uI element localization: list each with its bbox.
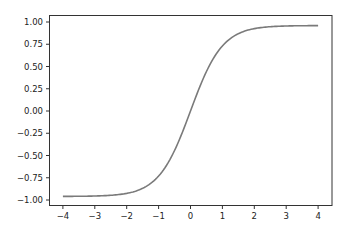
x-tick-label: 0 <box>188 211 193 221</box>
x-tick-label: −4 <box>57 211 70 221</box>
y-tick-label: 0.00 <box>24 106 43 116</box>
y-tick-label: 0.25 <box>24 84 43 94</box>
x-tick-label: −3 <box>89 211 102 221</box>
y-tick-label: −0.75 <box>17 173 43 183</box>
x-axis: −4−3−2−101234 <box>57 206 321 222</box>
x-tick-label: 3 <box>283 211 288 221</box>
x-tick-label: 2 <box>252 211 257 221</box>
y-axis: 1.000.750.500.250.00−0.25−0.50−0.75−1.00 <box>17 17 50 205</box>
y-tick-label: 0.50 <box>24 62 43 72</box>
y-tick-label: 1.00 <box>24 17 43 27</box>
y-tick-label: −0.25 <box>17 128 43 138</box>
line-chart: 1.000.750.500.250.00−0.25−0.50−0.75−1.00… <box>0 0 350 234</box>
x-tick-label: 4 <box>315 211 320 221</box>
x-tick-label: −2 <box>120 211 133 221</box>
x-tick-label: 1 <box>220 211 225 221</box>
y-tick-label: 0.75 <box>24 39 43 49</box>
x-tick-label: −1 <box>152 211 165 221</box>
y-tick-label: −1.00 <box>17 195 43 205</box>
y-tick-label: −0.50 <box>17 151 43 161</box>
